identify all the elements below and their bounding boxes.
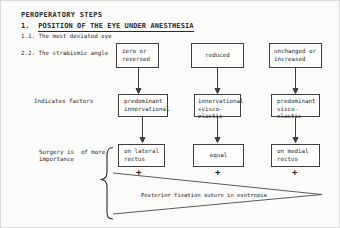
arrow-down-icon	[215, 138, 220, 143]
arrow-down-icon	[293, 138, 298, 143]
arrow-down-icon	[140, 138, 145, 143]
arrow-down-icon	[293, 89, 298, 94]
wedge-label: Posterior fixation suture in esotropia	[141, 192, 265, 198]
brace-icon	[101, 148, 114, 220]
scanned-page: PEROPERATORY STEPS 1. POSITION OF THE EY…	[0, 0, 340, 228]
arrow-down-icon	[136, 89, 141, 94]
arrow-down-icon	[215, 89, 220, 94]
